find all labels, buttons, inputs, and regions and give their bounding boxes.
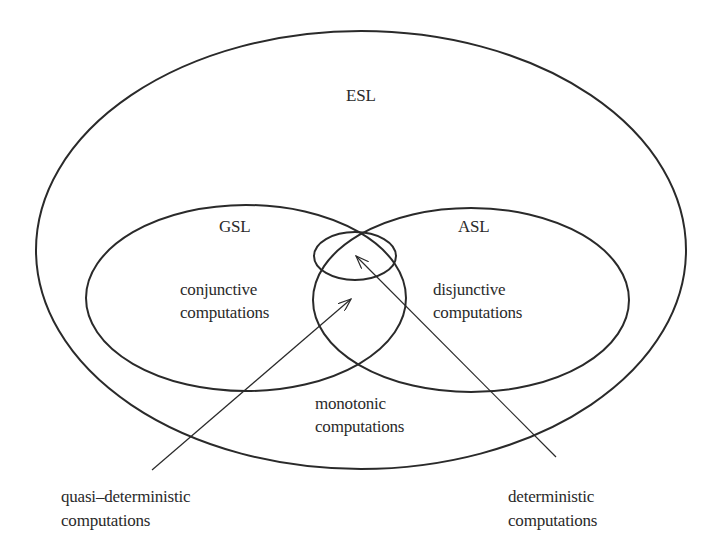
- asl-label: ASL: [458, 215, 490, 238]
- monotonic-label-line1: monotonic: [315, 392, 386, 415]
- deterministic-label-line1: deterministic: [508, 485, 594, 508]
- quasi-deterministic-label-line2: computations: [61, 509, 150, 532]
- deterministic-label-line2: computations: [508, 509, 597, 532]
- quasi-deterministic-arrow: [152, 299, 351, 470]
- gsl-description-line1: conjunctive: [180, 278, 257, 301]
- gsl-label: GSL: [219, 215, 251, 238]
- asl-description-line2: computations: [433, 301, 522, 324]
- deterministic-ellipse: [314, 232, 396, 280]
- quasi-deterministic-label-line1: quasi–deterministic: [61, 485, 190, 508]
- asl-description-line1: disjunctive: [433, 278, 505, 301]
- esl-label: ESL: [346, 84, 376, 107]
- gsl-description-line2: computations: [180, 301, 269, 324]
- monotonic-label-line2: computations: [315, 415, 404, 438]
